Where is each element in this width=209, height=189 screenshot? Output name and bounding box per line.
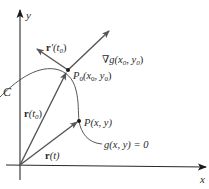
r-t0-label-end: )	[39, 108, 43, 120]
p-label: P(x, y)	[83, 117, 112, 129]
r-t-label-rest: (t)	[50, 150, 60, 162]
diagram-canvas: y x C r′(t0) ∇g(x0, y0) P0(x0, y0) P(x, …	[0, 0, 209, 189]
x-axis-label: x	[199, 173, 205, 185]
r-t0-label: r(t0)	[24, 108, 43, 121]
tangent-label: r′(t0)	[46, 42, 67, 55]
x-axis	[6, 165, 206, 167]
curve-equation-label: g(x, y) = 0	[104, 139, 149, 151]
curve-c-label: C	[3, 85, 12, 99]
gradient-label: ∇g(x0, y0)	[102, 54, 144, 67]
point-p0	[66, 68, 70, 72]
r-t-label: r(t)	[45, 150, 60, 162]
p0-label-end: )	[108, 70, 112, 82]
gradient-label-main: ∇g(x	[102, 54, 123, 66]
y-axis-label: y	[25, 9, 31, 21]
point-p	[77, 119, 81, 123]
p0-label-coords-mid: , y	[95, 70, 105, 81]
tangent-label-end: )	[63, 42, 67, 54]
gradient-label-end: )	[140, 54, 144, 66]
p0-label: P0(x0, y0)	[72, 70, 112, 83]
gradient-label-mid: , y	[126, 54, 136, 65]
